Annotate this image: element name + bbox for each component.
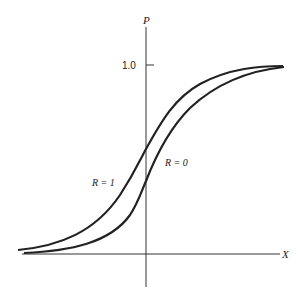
- y-axis-label: P: [142, 14, 150, 26]
- y-tick-label: 1.0: [122, 60, 136, 71]
- curve-r0: [24, 67, 284, 253]
- label-r0: R = 0: [164, 157, 188, 168]
- x-axis-label: X: [281, 248, 290, 260]
- curve-r1: [18, 66, 283, 250]
- label-r1: R = 1: [91, 177, 115, 188]
- probability-diagram: P 1.0 X R = 1 R = 0: [0, 0, 300, 297]
